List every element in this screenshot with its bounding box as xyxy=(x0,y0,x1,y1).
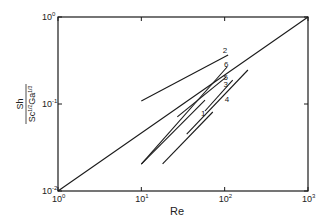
x-tick-label: 102 xyxy=(219,193,233,204)
x-tick-label: 100 xyxy=(52,193,66,204)
x-axis-ticks: 100101102103 xyxy=(52,17,316,204)
x-tick-label: 103 xyxy=(302,193,316,204)
y-label-numerator: Sh xyxy=(15,98,25,109)
line-curve-1-lower xyxy=(163,112,213,164)
line-curve-6 xyxy=(141,67,227,164)
line-curve-1 xyxy=(141,100,205,164)
y-axis-ticks: 10-210-1100 xyxy=(42,11,308,196)
chart: 100101102103 10-210-1100 123456 Re Sh Sc… xyxy=(0,0,330,222)
series-lines xyxy=(58,17,308,191)
label-curve-4: 4 xyxy=(225,95,230,104)
y-label-ga-exp: 1/3 xyxy=(27,86,33,93)
y-label-denominator: Sc1/2Ga1/3 xyxy=(27,86,37,123)
label-curve-2: 2 xyxy=(223,46,228,55)
label-curve-6: 6 xyxy=(224,60,229,69)
y-label-ga: Ga xyxy=(27,93,37,105)
y-label-sc: Sc xyxy=(27,111,37,122)
y-tick-label: 10-1 xyxy=(42,98,58,109)
x-tick-label: 101 xyxy=(135,193,149,204)
line-curve-2 xyxy=(141,55,228,101)
y-axis-label: Sh Sc1/2Ga1/3 xyxy=(15,84,37,124)
y-tick-label: 100 xyxy=(42,11,56,22)
line-reference xyxy=(58,17,308,191)
label-curve-3: 3 xyxy=(224,80,229,89)
label-curve-5: 5 xyxy=(224,73,229,82)
label-curve-1: 1 xyxy=(201,109,206,118)
x-axis-label: Re xyxy=(170,205,184,217)
